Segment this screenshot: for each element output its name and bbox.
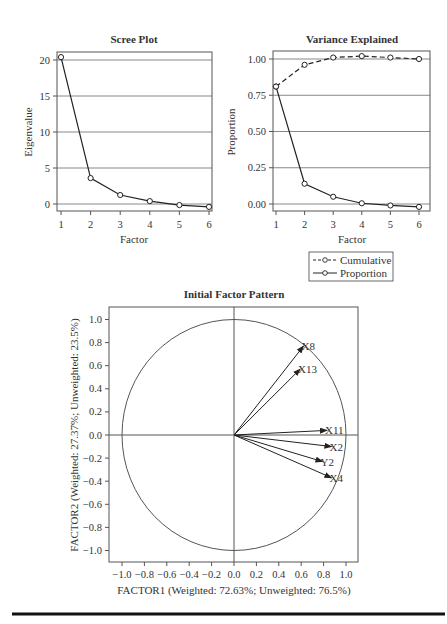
data-point-marker — [302, 62, 307, 67]
legend-marker-icon — [323, 258, 328, 263]
variance-title: Variance Explained — [306, 33, 398, 45]
x-tick-label: 0.4 — [272, 569, 286, 580]
factor-vector-x2: X2 — [234, 435, 343, 453]
x-tick-label: −0.6 — [157, 569, 176, 580]
data-point-marker — [416, 204, 421, 209]
data-point-marker — [388, 55, 393, 60]
data-point-marker — [416, 56, 421, 61]
figure-canvas: Scree Plot 05101520 123456 Factor Eigenv… — [0, 0, 447, 624]
vector-label: X11 — [325, 424, 344, 436]
arrow-icon — [234, 435, 331, 447]
y-tick-label: 0.0 — [89, 430, 102, 441]
scree-x-axis: 123456 — [58, 211, 211, 230]
variance-x-label: Factor — [338, 233, 366, 245]
variance-gridlines — [273, 59, 430, 204]
x-tick-label: 5 — [177, 219, 182, 230]
data-point-marker — [58, 55, 63, 60]
scree-gridlines — [57, 60, 212, 204]
arrow-icon — [234, 435, 322, 462]
arrow-icon — [234, 435, 331, 478]
x-tick-label: 0.6 — [295, 569, 308, 580]
data-point-marker — [273, 84, 278, 89]
factor-pattern-origin-axes — [109, 307, 358, 562]
factor-vector-x13: X13 — [234, 363, 318, 435]
y-tick-label: 10 — [40, 127, 51, 138]
y-tick-label: −0.8 — [83, 522, 102, 533]
variance-y-label: Proportion — [225, 108, 237, 156]
y-tick-label: 0.8 — [89, 337, 102, 348]
scree-title: Scree Plot — [110, 33, 157, 45]
arrow-icon — [234, 346, 303, 435]
data-point-marker — [331, 194, 336, 199]
y-tick-label: 0.75 — [248, 90, 266, 101]
y-tick-label: 0.50 — [248, 126, 266, 137]
y-tick-label: 1.0 — [89, 314, 102, 325]
vector-label: X13 — [298, 363, 317, 375]
y-tick-label: 1.00 — [248, 54, 266, 65]
x-tick-label: 1 — [58, 219, 63, 230]
x-tick-label: 6 — [206, 219, 211, 230]
y-tick-label: 5 — [45, 163, 50, 174]
legend-proportion-label: Proportion — [340, 267, 388, 279]
x-tick-label: −0.4 — [180, 569, 200, 580]
scree-plot: Scree Plot 05101520 123456 Factor Eigenv… — [22, 33, 212, 245]
x-tick-label: 0.2 — [250, 569, 263, 580]
x-tick-label: −0.8 — [135, 569, 154, 580]
scree-x-label: Factor — [120, 233, 148, 245]
series-line-proportion — [276, 87, 419, 207]
x-tick-label: 2 — [302, 219, 307, 230]
x-tick-label: 0.8 — [317, 569, 330, 580]
data-point-marker — [302, 181, 307, 186]
series-line-cumulative — [276, 56, 419, 86]
x-tick-label: −0.2 — [202, 569, 221, 580]
x-tick-label: 4 — [359, 219, 365, 230]
y-tick-label: 0.6 — [89, 360, 102, 371]
y-tick-label: 15 — [40, 91, 51, 102]
vector-label: X2 — [329, 441, 342, 453]
factor-pattern-x-label: FACTOR1 (Weighted: 72.63%; Unweighted: 7… — [117, 584, 351, 597]
x-tick-label: 5 — [388, 219, 393, 230]
y-tick-label: 20 — [40, 55, 51, 66]
factor-pattern-plot: Initial Factor Pattern 1.00.80.60.40.20.… — [68, 288, 358, 597]
x-tick-label: 3 — [331, 219, 336, 230]
data-point-marker — [388, 203, 393, 208]
factor-vector-x8: X8 — [234, 340, 315, 435]
data-point-marker — [88, 175, 93, 180]
factor-pattern-y-axis: 1.00.80.60.40.20.0−0.2−0.4−0.6−0.8−1.0 — [83, 314, 109, 556]
x-tick-label: −1.0 — [112, 569, 131, 580]
x-tick-label: 1.0 — [339, 569, 352, 580]
data-point-marker — [206, 204, 211, 209]
factor-pattern-title: Initial Factor Pattern — [184, 288, 285, 300]
y-tick-label: 0.2 — [89, 406, 102, 417]
y-tick-label: −0.2 — [83, 453, 102, 464]
x-tick-label: 3 — [118, 219, 123, 230]
x-tick-label: 6 — [416, 219, 421, 230]
scree-y-label: Eigenvalue — [22, 107, 34, 157]
arrow-icon — [234, 430, 327, 435]
variance-explained-plot: Variance Explained 0.000.250.500.751.00 … — [225, 33, 430, 281]
x-tick-label: 0.0 — [227, 569, 240, 580]
vector-label: X4 — [329, 472, 343, 484]
y-tick-label: 0.25 — [248, 162, 266, 173]
y-tick-label: 0.00 — [248, 199, 266, 210]
legend-cumulative-label: Cumulative — [340, 254, 391, 266]
data-point-marker — [118, 192, 123, 197]
factor-vector-y2: Y2 — [234, 435, 334, 468]
y-tick-label: 0 — [45, 199, 50, 210]
data-point-marker — [147, 199, 152, 204]
variance-y-axis: 0.000.250.500.751.00 — [248, 54, 273, 210]
variance-x-axis: 123456 — [273, 211, 421, 230]
factor-pattern-vectors: X8X13X11X2Y2X4 — [234, 340, 344, 484]
x-tick-label: 4 — [147, 219, 153, 230]
variance-legend: Cumulative Proportion — [309, 252, 393, 281]
scree-y-axis: 05101520 — [40, 55, 58, 210]
legend-marker-icon — [323, 271, 328, 276]
data-point-marker — [177, 202, 182, 207]
data-point-marker — [331, 55, 336, 60]
y-tick-label: −0.6 — [83, 499, 102, 510]
data-point-marker — [359, 54, 364, 59]
y-tick-label: −1.0 — [83, 545, 102, 556]
y-tick-label: 0.4 — [89, 383, 103, 394]
y-tick-label: −0.4 — [83, 476, 103, 487]
factor-pattern-y-label: FACTOR2 (Weighted: 27.37%; Unweighted: 2… — [68, 318, 81, 552]
